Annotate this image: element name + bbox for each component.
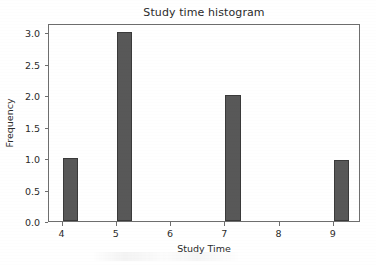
y-tick-mark [45,128,49,129]
x-tick-label: 7 [214,228,234,239]
x-tick-mark [333,222,334,226]
bar [63,158,78,221]
bars-layer [49,25,359,221]
y-tick-label: 0.0 [14,217,40,228]
bar [225,95,240,221]
x-tick-label: 6 [160,228,180,239]
y-tick-label: 0.5 [14,185,40,196]
x-tick-label: 9 [323,228,343,239]
y-tick-label: 2.0 [14,91,40,102]
page-title: Study time histogram [48,6,360,19]
y-axis-label-text: Frequency [4,98,15,147]
x-tick-mark [62,222,63,226]
plot-area [48,24,360,222]
x-tick-label: 5 [106,228,126,239]
y-tick-label: 3.0 [14,28,40,39]
y-tick-mark [45,65,49,66]
y-tick-mark [45,222,49,223]
figure-canvas: Study time histogram Frequency 0.00.51.0… [0,0,376,265]
y-tick-mark [45,33,49,34]
y-tick-label: 1.5 [14,122,40,133]
x-tick-mark [224,222,225,226]
y-tick-mark [45,191,49,192]
x-tick-mark [279,222,280,226]
y-tick-mark [45,96,49,97]
y-tick-label: 1.0 [14,154,40,165]
y-tick-label: 2.5 [14,59,40,70]
x-tick-label: 4 [52,228,72,239]
x-tick-label: 8 [269,228,289,239]
y-tick-mark [45,159,49,160]
x-axis-label: Study Time [48,243,360,254]
x-tick-mark [116,222,117,226]
bar [334,160,349,221]
bar [117,32,132,221]
x-tick-mark [170,222,171,226]
